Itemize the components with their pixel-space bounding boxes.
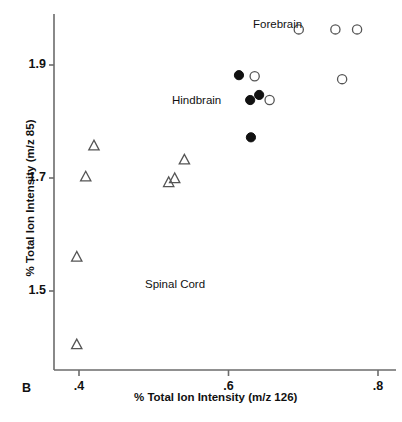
data-point-open-circle (338, 75, 347, 84)
scatter-plot-figure: 1.9 1.7 1.5 .4 .6 .8 % Total Ion Intensi… (0, 0, 402, 422)
axes (54, 14, 396, 370)
data-point-open-triangle (72, 339, 82, 349)
y-axis-tick-label: 1.9 (18, 57, 46, 71)
data-point-open-circle (331, 25, 340, 34)
data-point-open-circle (352, 25, 361, 34)
data-point-open-circle (265, 95, 274, 104)
panel-letter: B (22, 381, 31, 395)
data-point-open-circle (250, 72, 259, 81)
data-point-open-triangle (72, 252, 82, 262)
axis-ticks (49, 65, 378, 376)
y-axis-title: % Total Ion Intensity (m/z 85) (24, 98, 36, 298)
series-label-hindbrain: Hindbrain (172, 94, 221, 106)
data-point-filled-circle (246, 95, 255, 104)
data-point-filled-circle (255, 90, 264, 99)
series-label-forebrain: Forebrain (253, 18, 302, 30)
plot-canvas (0, 0, 402, 422)
data-point-filled-circle (234, 71, 243, 80)
data-points (72, 25, 362, 349)
x-axis-tick-label: .4 (67, 379, 91, 393)
series-label-spinal-cord: Spinal Cord (145, 278, 205, 290)
x-axis-tick-label: .8 (366, 379, 390, 393)
data-point-filled-circle (246, 133, 255, 142)
data-point-open-triangle (81, 171, 91, 181)
data-point-open-triangle (89, 140, 99, 150)
data-point-open-triangle (179, 154, 189, 164)
x-axis-title: % Total Ion Intensity (m/z 126) (134, 391, 297, 403)
